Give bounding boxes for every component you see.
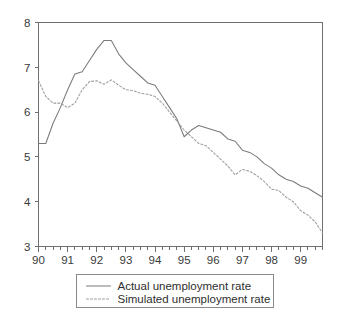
chart-canvas: 345678 90919293949596979899 Actual unemp… bbox=[0, 0, 340, 322]
x-axis-tick-label: 90 bbox=[32, 254, 45, 266]
legend-label-actual: Actual unemployment rate bbox=[118, 280, 252, 292]
x-axis-tick-label: 91 bbox=[61, 254, 74, 266]
x-axis-tick-label: 92 bbox=[90, 254, 103, 266]
x-axis-tick-label: 93 bbox=[119, 254, 132, 266]
x-axis-tick-label: 97 bbox=[236, 254, 249, 266]
x-axis-tick-label: 94 bbox=[149, 254, 162, 266]
y-axis-tick-label: 4 bbox=[24, 196, 31, 208]
x-axis-tick-label: 98 bbox=[265, 254, 278, 266]
legend-label-simulated: Simulated unemployment rate bbox=[118, 293, 271, 305]
y-axis-tick-label: 3 bbox=[24, 241, 30, 253]
chart-legend: Actual unemployment rate Simulated unemp… bbox=[77, 275, 274, 308]
unemployment-rate-chart: 345678 90919293949596979899 Actual unemp… bbox=[0, 0, 340, 322]
x-axis-tick-label: 95 bbox=[178, 254, 191, 266]
x-axis-tick-label: 99 bbox=[294, 254, 307, 266]
x-axis-tick-label: 96 bbox=[207, 254, 220, 266]
y-axis-tick-label: 7 bbox=[24, 62, 30, 74]
y-axis-tick-label: 5 bbox=[24, 151, 30, 163]
y-axis-tick-label: 8 bbox=[24, 17, 30, 29]
chart-background bbox=[0, 0, 340, 322]
y-axis-tick-label: 6 bbox=[24, 106, 30, 118]
